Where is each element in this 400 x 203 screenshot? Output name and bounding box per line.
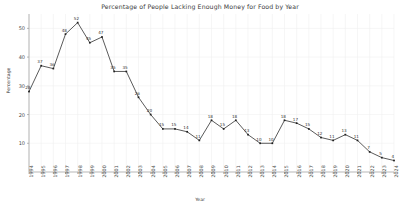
data-point-label: 35 — [110, 65, 115, 70]
y-tick-label: 10 — [6, 140, 25, 146]
chart-figure: Percentage of People Lacking Enough Mone… — [0, 0, 400, 203]
data-point-label: 13 — [342, 128, 347, 133]
data-point-label: 35 — [123, 65, 128, 70]
data-point-label: 45 — [86, 36, 91, 41]
data-point-label: 11 — [354, 134, 359, 139]
data-point-label: 12 — [317, 131, 322, 136]
y-tick-label: 20 — [6, 112, 25, 118]
data-point-label: 7 — [367, 145, 370, 150]
data-point-label: 36 — [50, 62, 55, 67]
data-point-label: 11 — [196, 134, 201, 139]
data-point-label: 20 — [147, 108, 152, 113]
data-point-label: 37 — [37, 59, 42, 64]
data-point-label: 5 — [379, 151, 382, 156]
data-point-label: 4 — [391, 154, 394, 159]
data-point-label: 11 — [329, 134, 334, 139]
y-tick-label: 30 — [6, 83, 25, 89]
data-point-label: 10 — [269, 137, 274, 142]
data-point-label: 28 — [25, 85, 30, 90]
y-tick-label: 40 — [6, 54, 25, 60]
gridlines — [29, 14, 394, 172]
data-point-label: 14 — [183, 125, 188, 130]
data-point-label: 52 — [74, 16, 79, 21]
data-point-label: 10 — [256, 137, 261, 142]
data-point-label: 13 — [244, 128, 249, 133]
data-point-label: 17 — [293, 117, 298, 122]
data-point-label: 48 — [62, 28, 67, 33]
y-tick-label: 50 — [6, 25, 25, 31]
data-point-label: 15 — [305, 122, 310, 127]
data-point-label: 15 — [159, 122, 164, 127]
data-point-label: 26 — [135, 91, 140, 96]
data-point-label: 15 — [171, 122, 176, 127]
data-point-label: 18 — [281, 114, 286, 119]
data-point-label: 47 — [98, 30, 103, 35]
data-point-label: 18 — [232, 114, 237, 119]
axis-ticks — [27, 28, 394, 174]
data-point-label: 15 — [220, 122, 225, 127]
data-point-label: 18 — [208, 114, 213, 119]
